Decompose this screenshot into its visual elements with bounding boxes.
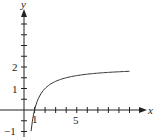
function-curve [31,71,129,131]
x-tick-label-5: 5 [73,114,79,126]
x-axis-label: x [147,104,153,116]
y-tick-label-neg1: −1 [4,125,16,137]
function-graph: y x 1 5 1 2 −1 [0,0,157,139]
x-tick-label-1: 1 [32,113,38,125]
y-axis-label: y [20,0,26,10]
y-tick-label-1: 1 [12,83,18,95]
y-axis-arrow-icon [21,9,27,17]
x-axis-arrow-icon [139,107,147,113]
y-tick-label-2: 2 [12,61,18,73]
